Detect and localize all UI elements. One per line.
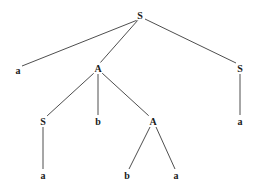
- node-leaf-a-left: a: [40, 170, 47, 181]
- node-S-left: S: [39, 116, 47, 127]
- edge-A-a-lower: [156, 127, 175, 169]
- node-A: A: [93, 63, 102, 74]
- tree-edges: [0, 0, 258, 190]
- node-leaf-a: a: [15, 65, 22, 76]
- node-leaf-a-right: a: [237, 116, 244, 127]
- edge-A-S: [47, 73, 94, 116]
- edge-A-A: [102, 73, 149, 116]
- node-S-right: S: [236, 63, 244, 74]
- node-leaf-b: b: [94, 116, 102, 127]
- node-A-lower: A: [148, 116, 157, 127]
- node-leaf-b-lower: b: [123, 170, 131, 181]
- edge-A-b-lower: [129, 127, 150, 169]
- node-leaf-a-lower: a: [173, 170, 180, 181]
- node-root-S: S: [136, 10, 144, 21]
- edge-root-S: [145, 19, 236, 63]
- edge-root-A: [100, 20, 138, 63]
- edge-root-a: [22, 19, 140, 66]
